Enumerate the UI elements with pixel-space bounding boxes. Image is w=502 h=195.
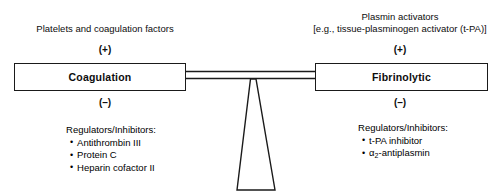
coagulation-box-label: Coagulation xyxy=(69,71,132,83)
left-inhibitors-header: Regulators/Inhibitors: xyxy=(66,124,156,137)
left-inhibitors-items: Antithrombin III Protein C Heparin cofac… xyxy=(66,137,156,175)
right-inhibitors-list: Regulators/Inhibitors: t-PA inhibitor α2… xyxy=(358,122,448,163)
balance-beam-icon xyxy=(186,72,315,79)
antiplasmin-suffix: -antiplasmin xyxy=(379,147,430,158)
left-stimulus-label: Platelets and coagulation factors xyxy=(36,23,173,35)
list-item: Protein C xyxy=(77,149,156,162)
left-minus-sign: (–) xyxy=(99,97,111,109)
list-item: α2-antiplasmin xyxy=(369,147,448,163)
diagram-canvas: Platelets and coagulation factors (+) Co… xyxy=(0,0,502,195)
right-minus-sign: (–) xyxy=(394,97,406,109)
list-item: Heparin cofactor II xyxy=(77,162,156,175)
right-plus-sign: (+) xyxy=(394,44,407,56)
right-inhibitors-header: Regulators/Inhibitors: xyxy=(358,122,448,135)
right-stimulus-label-line1: Plasmin activators xyxy=(361,11,438,23)
list-item: t-PA inhibitor xyxy=(369,135,448,148)
coagulation-box[interactable]: Coagulation xyxy=(14,63,186,91)
right-inhibitors-items: t-PA inhibitor α2-antiplasmin xyxy=(358,135,448,163)
left-inhibitors-list: Regulators/Inhibitors: Antithrombin III … xyxy=(66,124,156,174)
fibrinolytic-box[interactable]: Fibrinolytic xyxy=(315,63,488,91)
fulcrum-icon xyxy=(237,79,275,190)
fibrinolytic-box-label: Fibrinolytic xyxy=(372,71,431,83)
right-stimulus-label-line2: [e.g., tissue-plasminogen activator (t-P… xyxy=(313,23,487,35)
list-item: Antithrombin III xyxy=(77,137,156,150)
left-plus-sign: (+) xyxy=(99,44,112,56)
